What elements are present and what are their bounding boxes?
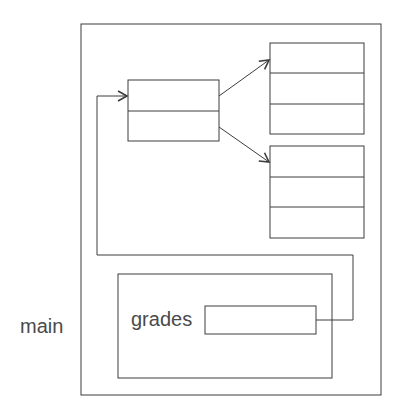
grades-reference-arrow [97, 96, 353, 320]
row-array-top [270, 43, 364, 134]
grades-label: grades [131, 308, 192, 330]
arrow-to-top-row [219, 60, 269, 96]
main-frame-label: main [20, 315, 63, 337]
array-of-refs [128, 80, 219, 141]
arrow-to-bottom-row [219, 127, 269, 162]
outer-region [81, 24, 381, 395]
memory-diagram: grades main [0, 0, 403, 414]
grades-slot [205, 306, 316, 334]
row-array-bottom [270, 146, 364, 238]
